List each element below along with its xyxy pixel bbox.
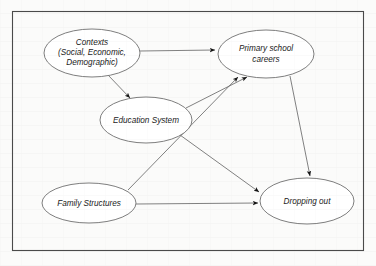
node-contexts-label-line2: (Social, Economic, [58,48,126,57]
edge-education-to-primary [186,77,247,108]
node-contexts[interactable]: Contexts (Social, Economic, Demographic) [44,29,140,77]
node-education-system[interactable]: Education System [100,97,192,143]
node-primary-school-careers-label-line1: Primary school [239,44,293,53]
node-primary-school-careers-shape [218,30,314,78]
edge-contexts-to-education [108,75,130,98]
node-family-structures-label: Family Structures [57,199,121,208]
diagram-canvas: Contexts (Social, Economic, Demographic)… [0,0,376,266]
node-education-system-label: Education System [113,116,179,125]
node-dropping-out-label: Dropping out [284,197,332,206]
node-layer: Contexts (Social, Economic, Demographic)… [42,29,354,224]
node-family-structures[interactable]: Family Structures [42,183,136,223]
node-contexts-label-line3: Demographic) [66,58,118,67]
node-primary-school-careers[interactable]: Primary school careers [218,30,314,78]
edge-education-to-dropping [180,135,259,192]
edge-family-to-dropping [136,203,258,204]
diagram-page: Contexts (Social, Economic, Demographic)… [0,0,376,266]
node-dropping-out[interactable]: Dropping out [260,178,354,224]
node-primary-school-careers-label-line2: careers [252,55,279,64]
edge-primary-to-dropping [290,76,310,176]
node-contexts-label-line1: Contexts [76,38,108,47]
edge-contexts-to-primary [140,50,215,51]
